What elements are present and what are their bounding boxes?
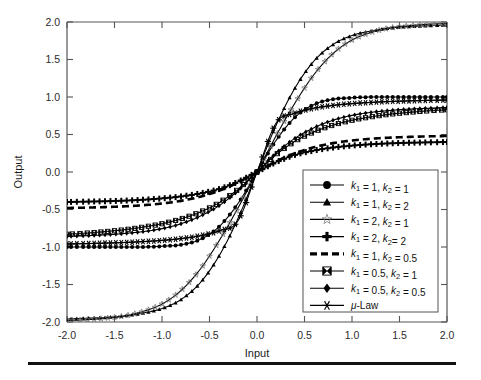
marker-bowtie-square (146, 224, 150, 228)
marker-bowtie-square (207, 206, 211, 210)
x-tick-label: 1.5 (392, 329, 407, 341)
x-tick-label: 0.0 (250, 329, 265, 341)
marker-filled-circle (323, 181, 331, 189)
marker-bowtie-square (180, 216, 184, 220)
x-axis-title: Input (245, 347, 269, 359)
marker-bowtie-square (377, 114, 381, 118)
legend: k1 = 1, k2 = 1k1 = 1, k2 = 2k1 = 2, k2 =… (303, 170, 438, 312)
y-tick-label: -1.5 (42, 278, 60, 290)
marker-bowtie-square (167, 220, 171, 224)
y-tick-label: 0.5 (45, 128, 60, 140)
marker-filled-circle (157, 244, 161, 248)
figure-container: -2.0-1.5-1.0-0.50.00.51.01.52.02.01.51.0… (0, 0, 481, 380)
marker-bowtie-square (404, 111, 408, 115)
marker-filled-circle (326, 98, 330, 102)
x-tick-label: 2.0 (440, 329, 455, 341)
marker-filled-circle (141, 245, 145, 249)
marker-bowtie-square (201, 209, 205, 213)
marker-filled-circle (146, 245, 150, 249)
marker-bowtie-square (173, 218, 177, 222)
marker-filled-circle (380, 95, 384, 99)
x-tick-label: -1.5 (105, 329, 123, 341)
marker-filled-circle (222, 219, 226, 223)
marker-filled-circle (358, 95, 362, 99)
marker-bowtie-square (432, 108, 436, 112)
x-tick-label: 0.5 (297, 329, 312, 341)
marker-bowtie-square (330, 123, 334, 127)
marker-filled-circle (320, 100, 324, 104)
marker-filled-circle (288, 121, 292, 125)
y-tick-label: -2.0 (42, 316, 60, 328)
marker-filled-circle (282, 127, 286, 131)
marker-filled-circle (364, 95, 368, 99)
marker-filled-circle (163, 244, 167, 248)
x-tick-label: 1.0 (345, 329, 360, 341)
y-tick-label: -1.0 (42, 241, 60, 253)
marker-bowtie-square (126, 227, 130, 231)
marker-filled-circle (125, 245, 129, 249)
marker-bowtie-square (350, 118, 354, 122)
marker-filled-circle (374, 95, 378, 99)
marker-bowtie-square (302, 134, 306, 138)
marker-bowtie-square (106, 229, 110, 233)
marker-filled-circle (114, 245, 118, 249)
legend-label: μ-Law (350, 300, 379, 311)
marker-bowtie-square (187, 214, 191, 218)
marker-filled-circle (119, 245, 123, 249)
marker-filled-circle (190, 240, 194, 244)
y-tick-label: 1.5 (45, 53, 60, 65)
chart-canvas: -2.0-1.5-1.0-0.50.00.51.01.52.02.01.51.0… (0, 0, 481, 380)
marker-bowtie-square (133, 226, 137, 230)
marker-filled-circle (184, 242, 188, 246)
marker-filled-circle (174, 243, 178, 247)
marker-bowtie-square (153, 223, 157, 227)
marker-bowtie-square (323, 126, 327, 130)
marker-filled-circle (179, 243, 183, 247)
x-tick-label: -1.0 (153, 329, 171, 341)
marker-filled-circle (152, 245, 156, 249)
page-separator-rule (28, 362, 456, 365)
marker-bowtie-square (357, 117, 361, 121)
y-tick-label: 2.0 (45, 16, 60, 28)
marker-filled-circle (228, 213, 232, 217)
marker-filled-circle (391, 95, 395, 99)
marker-filled-circle (385, 95, 389, 99)
marker-bowtie-square (336, 121, 340, 125)
marker-filled-circle (168, 244, 172, 248)
marker-filled-circle (342, 96, 346, 100)
x-tick-label: -0.5 (200, 329, 218, 341)
marker-bowtie-square (160, 222, 164, 226)
marker-filled-circle (331, 97, 335, 101)
marker-filled-circle (347, 96, 351, 100)
marker-filled-circle (336, 97, 340, 101)
marker-bowtie-square (323, 267, 331, 275)
marker-filled-circle (353, 96, 357, 100)
y-tick-label: 0.0 (45, 166, 60, 178)
marker-bowtie-square (309, 131, 313, 135)
marker-bowtie-square (363, 116, 367, 120)
marker-filled-circle (136, 245, 140, 249)
x-tick-label: -2.0 (58, 329, 76, 341)
marker-bowtie-square (140, 225, 144, 229)
y-axis-title: Output (12, 155, 24, 188)
marker-filled-circle (396, 95, 400, 99)
marker-bowtie-square (78, 231, 82, 235)
marker-bowtie-square (343, 120, 347, 124)
marker-filled-circle (315, 101, 319, 105)
marker-filled-circle (195, 239, 199, 243)
marker-filled-circle (369, 95, 373, 99)
y-tick-label: 1.0 (45, 91, 60, 103)
y-tick-label: -0.5 (42, 203, 60, 215)
marker-bowtie-square (370, 115, 374, 119)
marker-bowtie-square (384, 113, 388, 117)
marker-filled-circle (130, 245, 134, 249)
